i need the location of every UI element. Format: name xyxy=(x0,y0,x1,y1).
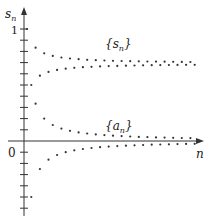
x-axis-arrow-icon xyxy=(196,138,204,144)
a-point xyxy=(30,196,32,198)
a-point xyxy=(159,143,161,145)
origin-label: 0 xyxy=(8,146,16,160)
a-point xyxy=(60,128,62,130)
a-point xyxy=(172,137,174,139)
s-point xyxy=(121,60,123,62)
a-point xyxy=(78,131,80,133)
a-point xyxy=(43,118,45,120)
a-point xyxy=(103,134,105,136)
a-point xyxy=(35,103,37,105)
a-point xyxy=(194,143,196,145)
a-series-label: {an} xyxy=(105,119,133,135)
a-point xyxy=(146,136,148,138)
s-point xyxy=(90,66,92,68)
a-point xyxy=(56,154,58,156)
s-point xyxy=(30,84,32,86)
a-point xyxy=(99,146,101,148)
a-point xyxy=(39,168,41,170)
a-point xyxy=(47,159,49,161)
a-point xyxy=(181,137,183,139)
a-point xyxy=(133,144,135,146)
s-point xyxy=(112,60,114,62)
convergence-chart: sn 1 0 n {sn} {an} xyxy=(0,0,209,219)
a-point xyxy=(82,148,84,150)
s-point xyxy=(26,28,28,30)
s-point xyxy=(129,60,131,62)
s-series-label: {sn} xyxy=(105,37,132,53)
s-point xyxy=(99,65,101,67)
x-axis-label: n xyxy=(196,147,204,161)
s-point xyxy=(194,64,196,66)
s-point xyxy=(86,59,88,61)
s-point xyxy=(39,75,41,77)
s-point xyxy=(47,71,49,73)
s-point xyxy=(168,64,170,66)
s-point xyxy=(69,57,71,59)
a-point xyxy=(138,136,140,138)
s-point xyxy=(125,65,127,67)
s-point xyxy=(43,52,45,54)
s-point xyxy=(142,64,144,66)
y-axis-label: sn xyxy=(5,7,16,23)
s-point xyxy=(151,64,153,66)
a-point xyxy=(185,143,187,145)
s-point xyxy=(172,61,174,63)
a-point xyxy=(86,132,88,134)
a-point xyxy=(142,144,144,146)
a-series-points xyxy=(30,103,196,198)
s-point xyxy=(103,59,105,61)
a-point xyxy=(52,124,54,126)
a-point xyxy=(95,133,97,135)
s-point xyxy=(164,61,166,63)
a-point xyxy=(90,147,92,149)
a-point xyxy=(69,130,71,132)
s-point xyxy=(155,61,157,63)
s-point xyxy=(52,55,54,57)
a-point xyxy=(151,144,153,146)
a-point xyxy=(155,136,157,138)
s-point xyxy=(176,64,178,66)
y-tick-label-one: 1 xyxy=(11,24,18,37)
a-point xyxy=(116,145,118,147)
a-point xyxy=(121,135,123,137)
s-point xyxy=(65,68,67,70)
s-point xyxy=(95,59,97,61)
a-point xyxy=(108,146,110,148)
s-point xyxy=(189,61,191,63)
s-point xyxy=(181,61,183,63)
s-point xyxy=(73,67,75,69)
s-point xyxy=(116,65,118,67)
s-point xyxy=(56,69,58,71)
y-axis-arrow-icon xyxy=(21,7,27,15)
a-point xyxy=(176,143,178,145)
a-point xyxy=(73,149,75,151)
a-point xyxy=(164,137,166,139)
a-point xyxy=(168,143,170,145)
a-point xyxy=(65,151,67,153)
s-point xyxy=(159,64,161,66)
a-point xyxy=(129,135,131,137)
s-point xyxy=(82,66,84,68)
a-point xyxy=(189,137,191,139)
s-point xyxy=(78,58,80,60)
s-point xyxy=(60,56,62,58)
s-point xyxy=(108,65,110,67)
a-point xyxy=(112,135,114,137)
s-point xyxy=(133,64,135,66)
s-point xyxy=(35,47,37,49)
s-point xyxy=(146,60,148,62)
s-point xyxy=(185,64,187,66)
a-point xyxy=(125,145,127,147)
s-point xyxy=(138,60,140,62)
